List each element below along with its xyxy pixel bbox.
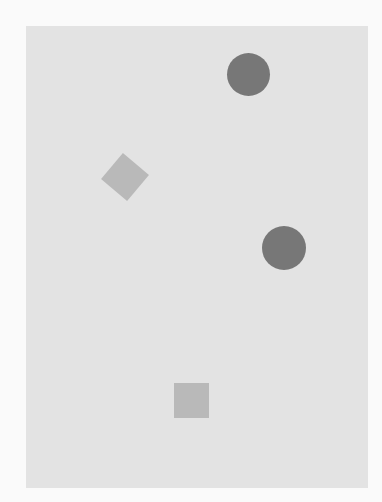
- dark-circle-middle: [262, 226, 306, 270]
- shape-panel: [26, 26, 368, 488]
- dark-circle-top: [227, 53, 270, 96]
- canvas: [0, 0, 382, 502]
- square-bottom: [174, 383, 209, 418]
